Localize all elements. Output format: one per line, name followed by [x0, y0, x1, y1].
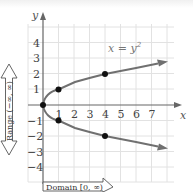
grid [28, 24, 174, 182]
svg-text:−4: −4 [27, 161, 43, 174]
svg-text:3: 3 [87, 108, 94, 121]
svg-text:4: 4 [102, 108, 109, 121]
lower-curve-arrow-icon [157, 144, 168, 151]
graph-x-equals-y-squared: y x 1 2 3 4 5 6 7 1 2 3 4 −1 −2 −3 −4 x … [0, 0, 193, 192]
range-label: Range (−∞, ∞) [5, 81, 14, 141]
svg-text:3: 3 [33, 52, 40, 65]
y-axis-arrow-icon [40, 12, 46, 20]
svg-text:2: 2 [33, 68, 40, 81]
y-axis-label: y [31, 9, 39, 22]
svg-text:−2: −2 [27, 130, 43, 143]
svg-text:5: 5 [118, 108, 125, 121]
upper-branch [43, 64, 158, 106]
svg-text:4: 4 [33, 37, 40, 50]
svg-text:1: 1 [33, 83, 40, 96]
svg-text:2: 2 [71, 108, 78, 121]
x-axis-arrow-icon [174, 102, 182, 108]
upper-curve-arrow-icon [157, 60, 168, 67]
svg-text:6: 6 [133, 108, 140, 121]
domain-arrow-annotation: Domain [0, ∞) [43, 178, 113, 192]
x-axis-label: x [180, 109, 187, 122]
equation-label: x = y2 [108, 41, 142, 55]
range-arrow-annotation: Range (−∞, ∞) [1, 64, 17, 155]
svg-text:7: 7 [149, 108, 156, 121]
svg-text:−3: −3 [27, 146, 43, 159]
svg-text:−1: −1 [27, 115, 43, 128]
x-tick-labels: 1 2 3 4 5 6 7 [56, 108, 156, 121]
domain-label: Domain [0, ∞) [46, 183, 103, 192]
